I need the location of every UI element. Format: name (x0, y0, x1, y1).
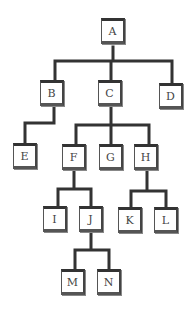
tree-node-f: F (62, 144, 86, 170)
tree-node-b: B (40, 80, 64, 106)
tree-node-h: H (134, 144, 158, 170)
tree-node-a: A (101, 18, 125, 44)
tree-node-l: L (154, 207, 178, 233)
tree-node-n: N (97, 269, 121, 295)
tree-node-i: I (43, 206, 67, 232)
tree-node-e: E (13, 143, 37, 169)
tree-node-m: M (61, 269, 85, 295)
tree-node-c: C (98, 80, 122, 106)
tree-node-j: J (79, 206, 103, 232)
tree-node-g: G (99, 144, 123, 170)
tree-node-k: K (118, 207, 142, 233)
tree-node-d: D (159, 83, 183, 109)
